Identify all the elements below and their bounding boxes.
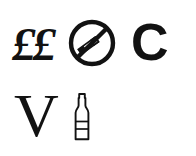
no-smoking-icon [67, 18, 117, 68]
pound-sterling-pair-icon: ££ [12, 21, 53, 68]
bottle-icon [71, 92, 93, 142]
bottom-row: V [0, 84, 196, 150]
letter-v-glyph: V [14, 84, 59, 146]
top-row: ££ C [0, 10, 196, 76]
symbol-sheet: ££ C V [0, 0, 196, 156]
letter-c-glyph: C [131, 16, 169, 68]
